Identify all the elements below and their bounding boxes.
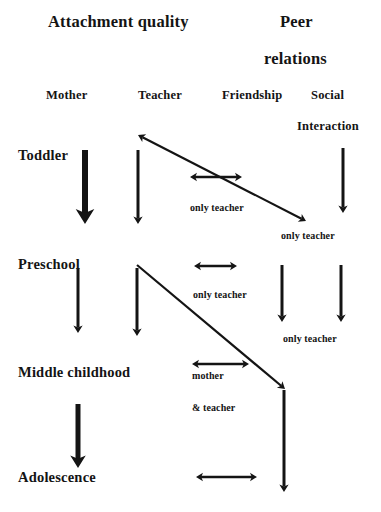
mother-preschool-to-middle-head-end xyxy=(73,326,82,334)
social-preschool-to-middle-head-end xyxy=(336,315,345,323)
middle-friendship-link-head-start xyxy=(192,360,199,369)
middle-friendship-link xyxy=(192,360,249,369)
adolescence-friendship-link-head-start xyxy=(196,473,203,482)
annotation-preschool-social-only-teacher: only teacher xyxy=(283,334,337,344)
mother-middle-to-adolescence xyxy=(70,404,86,468)
preschool-friendship-link-head-start xyxy=(194,262,201,271)
stage-label-toddler: Toddler xyxy=(18,148,68,163)
preschool-teacher-to-friendship-diagonal-head-end xyxy=(277,381,285,389)
adolescence-friendship-link xyxy=(196,473,257,482)
middle-friendship-link-head-end xyxy=(242,360,249,369)
annotation-toddler-friendship-only-teacher: only teacher xyxy=(190,203,244,213)
mother-preschool-to-middle xyxy=(73,268,82,333)
preschool-teacher-to-friendship-diagonal-shaft xyxy=(137,265,281,386)
annotation-middle-childhood-mother: mother xyxy=(192,371,224,381)
toddler-friendship-link-head-start xyxy=(190,173,197,182)
friendship-preschool-to-middle-head-end xyxy=(277,315,286,323)
column-header-teacher: Teacher xyxy=(138,89,182,102)
friendship-middle-to-adolescence xyxy=(279,390,288,492)
annotation-middle-childhood-and-teacher: & teacher xyxy=(192,403,235,413)
teacher-toddler-to-preschool-head-end xyxy=(133,217,142,225)
social-preschool-to-middle xyxy=(336,265,345,322)
toddler-teacher-to-social-diagonal-head-end xyxy=(298,214,306,222)
mother-middle-to-adolescence-head-end xyxy=(70,456,86,469)
adolescence-friendship-link-head-end xyxy=(250,473,257,482)
preschool-friendship-link xyxy=(194,262,237,271)
column-header-friendship: Friendship xyxy=(222,89,282,102)
friendship-preschool-to-middle xyxy=(277,265,286,322)
social-toddler-to-preschool xyxy=(338,148,347,213)
teacher-preschool-to-middle xyxy=(132,268,141,336)
stage-label-preschool: Preschool xyxy=(18,257,80,272)
developmental-relations-diagram: Attachment quality Peer relations Mother… xyxy=(0,0,381,512)
teacher-toddler-to-preschool xyxy=(133,150,142,224)
mother-toddler-to-preschool-head-end xyxy=(76,209,95,224)
annotation-toddler-social-only-teacher: only teacher xyxy=(281,231,335,241)
toddler-friendship-link-head-end xyxy=(235,173,242,182)
stage-label-middle-childhood: Middle childhood xyxy=(18,365,130,380)
column-header-social-interaction-line2: Interaction xyxy=(297,120,359,133)
annotation-preschool-friendship-only-teacher: only teacher xyxy=(193,290,247,300)
column-header-mother: Mother xyxy=(46,89,87,102)
toddler-friendship-link xyxy=(190,173,242,182)
group-heading-peer-relations-line2: relations xyxy=(264,51,327,68)
column-header-social-interaction-line1: Social xyxy=(311,89,344,102)
stage-label-adolescence: Adolescence xyxy=(18,470,96,485)
friendship-middle-to-adolescence-head-end xyxy=(279,485,288,493)
teacher-preschool-to-middle-head-end xyxy=(132,329,141,337)
group-heading-peer-relations-line1: Peer xyxy=(280,14,313,31)
group-heading-attachment-quality: Attachment quality xyxy=(48,14,189,31)
toddler-teacher-to-social-diagonal-head-start xyxy=(138,134,146,142)
mother-toddler-to-preschool xyxy=(76,150,95,224)
social-toddler-to-preschool-head-end xyxy=(338,206,347,214)
preschool-friendship-link-head-end xyxy=(230,262,237,271)
